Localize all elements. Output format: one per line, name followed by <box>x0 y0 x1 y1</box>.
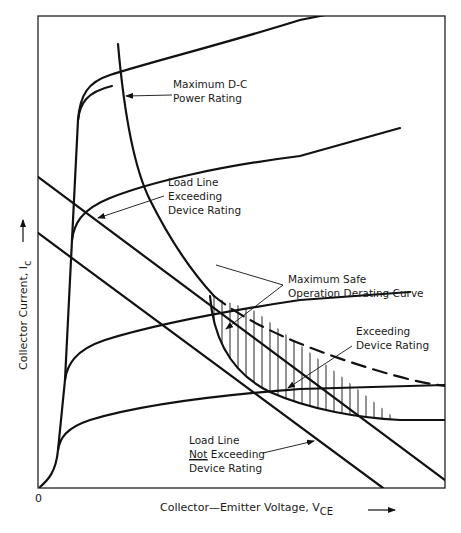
exceeding-rating-label-line2: Device Rating <box>356 339 429 351</box>
load-line-exceeding-label-line1: Load Line <box>168 176 218 188</box>
x-axis-label-text: Collector—Emitter Voltage, VCE <box>160 501 333 517</box>
x-axis-label: Collector—Emitter Voltage, VCE <box>160 501 395 517</box>
exceeding-rating-label-line1: Exceeding <box>356 325 410 337</box>
annotation-load-line-not-exceeding: Load Line Not Exceeding Device Rating <box>189 434 314 474</box>
load-line-exceeding-label-line2: Exceeding <box>168 190 222 202</box>
exceeding-rating-hatch <box>214 290 390 430</box>
load-line-not-exceeding-label-line2: Not Exceeding <box>189 448 265 460</box>
load-line-not-exceeding-label-line3: Device Rating <box>189 462 262 474</box>
derating-label-line1: Maximum Safe <box>288 273 366 285</box>
max-dc-power-label-line2: Power Rating <box>173 92 242 104</box>
load-line-exceeding-label-line3: Device Rating <box>168 204 241 216</box>
annotation-max-dc-power: Maximum D-C Power Rating <box>126 78 247 104</box>
characteristic-curve-ib4 <box>78 86 112 120</box>
y-axis-label-text: Collector Current, Ic <box>17 261 33 370</box>
annotation-derating-curve: Maximum Safe Operation Derating Curve <box>216 265 424 329</box>
characteristic-curve-ib3 <box>72 128 400 240</box>
characteristic-curve-ib1 <box>58 385 445 450</box>
max-dc-power-label-line1: Maximum D-C <box>173 78 247 90</box>
origin-label: 0 <box>35 492 42 505</box>
y-axis-label: Collector Current, Ic <box>17 220 33 370</box>
load-line-not-exceeding-label-line1: Load Line <box>189 434 239 446</box>
transistor-characteristics-diagram: Maximum D-C Power Rating Load Line Excee… <box>0 0 461 533</box>
annotation-load-line-exceeding: Load Line Exceeding Device Rating <box>98 176 241 218</box>
derating-label-line2: Operation Derating Curve <box>288 287 424 299</box>
